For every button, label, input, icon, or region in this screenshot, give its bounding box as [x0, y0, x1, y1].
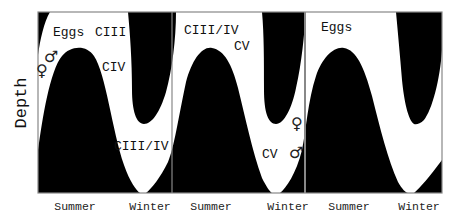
female-symbol-2: ♀	[291, 114, 303, 133]
label-civ: CIV	[102, 60, 126, 75]
label-cv-bottom: CV	[262, 147, 278, 162]
male-symbol-2: ♂	[289, 143, 303, 162]
label-ciii: CIII	[95, 25, 126, 40]
x-tick-summer-2: Summer	[190, 200, 231, 213]
label-eggs-3: Eggs	[321, 20, 352, 35]
label-ciii-iv-1: CIII/IV	[114, 139, 169, 154]
x-tick-summer-1: Summer	[54, 200, 95, 213]
label-ciii-iv-2: CIII/IV	[184, 23, 239, 38]
y-axis-label: Depth	[12, 77, 31, 128]
x-tick-winter-1: Winter	[129, 200, 170, 213]
x-tick-winter-3: Winter	[398, 200, 439, 213]
female-symbol-1: ♀	[36, 61, 48, 80]
x-tick-summer-3: Summer	[328, 200, 369, 213]
label-eggs-1: Eggs	[53, 25, 84, 40]
migration-diagram: Depth Eggs CIII CIV CIII/IV ♂ ♀ CIII/IV …	[0, 0, 458, 222]
label-cv-top: CV	[234, 39, 250, 54]
x-tick-winter-2: Winter	[267, 200, 308, 213]
